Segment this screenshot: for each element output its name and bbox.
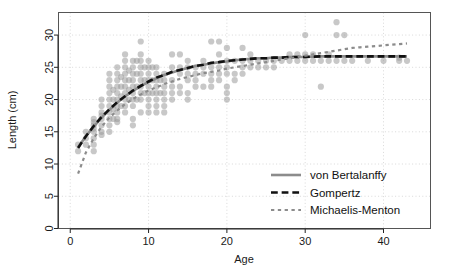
scatter-point (302, 58, 308, 64)
scatter-point (114, 64, 120, 70)
scatter-point (216, 77, 222, 83)
scatter-point (138, 58, 144, 64)
scatter-point (177, 84, 183, 90)
scatter-point (326, 58, 332, 64)
scatter-point (145, 71, 151, 77)
legend-label: Gompertz (310, 187, 361, 199)
scatter-point (153, 109, 159, 115)
y-axis-tick-label: 20 (43, 93, 55, 105)
y-axis-tick-label: 5 (43, 193, 55, 199)
legend-label: von Bertalanffy (310, 169, 387, 181)
scatter-point (106, 129, 112, 135)
y-axis-tick-label: 10 (43, 158, 55, 170)
scatter-point (333, 19, 339, 25)
scatter-point (169, 84, 175, 90)
scatter-point (192, 84, 198, 90)
scatter-point (122, 51, 128, 57)
scatter-point (239, 71, 245, 77)
scatter-point (192, 77, 198, 83)
scatter-point (333, 58, 339, 64)
scatter-point (224, 45, 230, 51)
x-axis-tick-label: 10 (142, 235, 154, 247)
scatter-plot-canvas: 010203040 051015202530 Age Length (cm) v… (0, 0, 451, 273)
scatter-point (200, 84, 206, 90)
scatter-point (208, 77, 214, 83)
scatter-point (185, 90, 191, 96)
scatter-point (310, 58, 316, 64)
scatter-point (208, 64, 214, 70)
scatter-point (130, 64, 136, 70)
scatter-point (404, 58, 410, 64)
scatter-point (130, 103, 136, 109)
scatter-point (130, 116, 136, 122)
scatter-point (380, 58, 386, 64)
scatter-point (185, 96, 191, 102)
scatter-point (161, 96, 167, 102)
scatter-point (145, 103, 151, 109)
scatter-point (138, 51, 144, 57)
scatter-point (333, 32, 339, 38)
scatter-point (224, 90, 230, 96)
scatter-point (224, 84, 230, 90)
scatter-point (263, 64, 269, 70)
scatter-point (91, 148, 97, 154)
scatter-point (98, 132, 104, 138)
scatter-point (138, 38, 144, 44)
scatter-point (294, 58, 300, 64)
scatter-point (365, 58, 371, 64)
scatter-point (247, 51, 253, 57)
scatter-point (169, 96, 175, 102)
scatter-point (91, 142, 97, 148)
scatter-point (130, 122, 136, 128)
scatter-point (185, 71, 191, 77)
scatter-point (98, 103, 104, 109)
scatter-point (232, 71, 238, 77)
scatter-point (341, 58, 347, 64)
y-axis-title: Length (cm) (6, 91, 18, 150)
scatter-point (145, 96, 151, 102)
scatter-point (216, 51, 222, 57)
scatter-point (177, 51, 183, 57)
scatter-point (106, 71, 112, 77)
growth-model-figure: 010203040 051015202530 Age Length (cm) v… (0, 0, 451, 273)
scatter-point (138, 71, 144, 77)
scatter-point (153, 96, 159, 102)
scatter-point (145, 109, 151, 115)
scatter-point (138, 96, 144, 102)
scatter-point (185, 58, 191, 64)
scatter-point (106, 122, 112, 128)
scatter-point (153, 64, 159, 70)
scatter-point (318, 84, 324, 90)
scatter-point (255, 64, 261, 70)
scatter-point (161, 109, 167, 115)
y-axis-tick-label: 25 (43, 61, 55, 73)
x-axis-tick-label: 30 (299, 235, 311, 247)
scatter-point (341, 32, 347, 38)
scatter-point (122, 109, 128, 115)
scatter-point (130, 77, 136, 83)
scatter-point (232, 77, 238, 83)
scatter-point (122, 58, 128, 64)
y-axis-tick-label: 30 (43, 29, 55, 41)
scatter-point (153, 103, 159, 109)
x-axis-tick-label: 40 (377, 235, 389, 247)
scatter-point (145, 58, 151, 64)
scatter-point (239, 45, 245, 51)
scatter-point (169, 51, 175, 57)
scatter-point (349, 58, 355, 64)
scatter-point (216, 38, 222, 44)
scatter-point (177, 90, 183, 96)
scatter-point (98, 96, 104, 102)
scatter-point (161, 90, 167, 96)
scatter-point (169, 90, 175, 96)
y-axis-tick-label: 15 (43, 126, 55, 138)
x-axis-tick-label: 20 (221, 235, 233, 247)
scatter-point (91, 116, 97, 122)
x-axis-title: Age (234, 253, 254, 265)
scatter-point (169, 64, 175, 70)
x-axis-tick-label: 0 (67, 235, 73, 247)
scatter-point (271, 64, 277, 70)
scatter-point (200, 58, 206, 64)
scatter-point (318, 58, 324, 64)
scatter-point (161, 103, 167, 109)
